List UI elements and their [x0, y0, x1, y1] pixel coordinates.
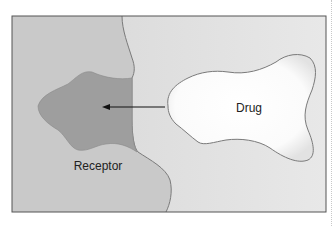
- page-margin-rule: [331, 0, 332, 226]
- receptor-label: Receptor: [74, 159, 123, 173]
- drug-receptor-diagram: Drug Receptor: [0, 0, 336, 226]
- diagram-canvas: Drug Receptor: [0, 0, 336, 226]
- drug-label: Drug: [236, 101, 262, 115]
